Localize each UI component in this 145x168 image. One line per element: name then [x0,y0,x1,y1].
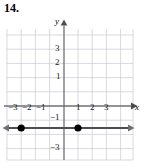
x-tick-label-2: 2 [90,103,95,112]
x-axis-label: x [135,103,139,112]
point-neg3-neg2 [18,124,25,131]
problem-number: 14. [4,2,19,14]
y-tick-label-neg3: −3 [50,143,60,152]
y-tick-label-1: 1 [56,72,61,81]
x-tick-label-neg1: −1 [36,103,46,112]
grid-vertical [7,29,133,160]
y-axis-label: y [55,17,59,26]
x-tick-label-neg2: −2 [22,103,32,112]
y-tick-label-2: 2 [55,58,60,67]
grid-horizontal [7,35,133,160]
y-tick-label-3: 3 [55,44,60,53]
point-1-neg2 [74,124,81,131]
coordinate-plane: y x [0,16,145,168]
x-tick-label-3: 3 [104,103,109,112]
x-tick-label-neg3: −3 [8,103,18,112]
x-tick-label-1: 1 [76,103,81,112]
figure-container: 14. [0,0,145,168]
y-axis [61,20,68,161]
graph-svg [0,16,145,168]
y-tick-label-neg1: −1 [50,113,60,122]
